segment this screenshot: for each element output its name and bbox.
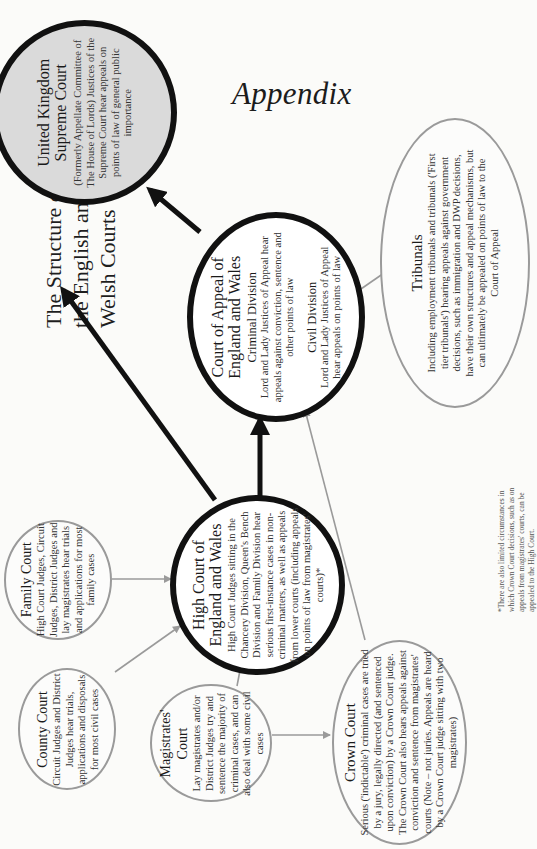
node-court-of-appeal: Court of Appeal of England and Wales Cri… bbox=[187, 212, 365, 422]
arrow-appeal-to-supreme bbox=[150, 190, 200, 232]
magistrates-title-1: Magistrates' bbox=[157, 688, 174, 798]
tribunals-title: Tribunals bbox=[409, 148, 426, 378]
magistrates-title-2: Court bbox=[174, 688, 191, 798]
criminal-division-text: Lord and Lady Justices of Appeal hear ap… bbox=[259, 222, 297, 412]
footnote: *There are also limited circumstances in… bbox=[497, 472, 537, 612]
county-title: County Court bbox=[34, 670, 51, 788]
supreme-text: (Formerly Appellate Committee of The Hou… bbox=[72, 38, 135, 188]
node-family-court: Family Court High Court Judges, Circuit … bbox=[4, 520, 112, 640]
node-crown-court: Crown Court Serious ('indictable') crimi… bbox=[332, 640, 467, 845]
criminal-division-heading: Criminal Division bbox=[245, 222, 259, 412]
arrow-county-to-high bbox=[115, 626, 180, 672]
civil-division-heading: Civil Division bbox=[304, 222, 318, 412]
civil-division-text: Lord and Lady Justices of Appeal hear ap… bbox=[318, 222, 343, 412]
node-high-court: High Court of England and Wales High Cou… bbox=[170, 495, 345, 675]
family-title: Family Court bbox=[18, 522, 35, 638]
magistrates-text: Lay magistrates and/or District Judges t… bbox=[191, 688, 266, 798]
tribunals-text: Including employment tribunals and tribu… bbox=[426, 148, 501, 378]
family-text: High Court Judges, Circuit Judges, Distr… bbox=[35, 522, 98, 638]
high-title-1: High Court of bbox=[190, 504, 207, 666]
appeal-title-1: Court of Appeal of bbox=[209, 222, 226, 412]
high-title-2: England and Wales bbox=[207, 504, 224, 666]
crown-title: Crown Court bbox=[341, 648, 358, 838]
node-supreme-court: United Kingdom Supreme Court (Formerly A… bbox=[0, 20, 177, 205]
node-county-court: County Court Circuit Judges and District… bbox=[18, 668, 116, 790]
node-tribunals: Tribunals Including employment tribunals… bbox=[380, 118, 530, 408]
crown-text: Serious ('indictable') criminal cases ar… bbox=[358, 648, 458, 838]
high-text: High Court Judges sitting in the Chancer… bbox=[226, 504, 326, 666]
supreme-title-2: Supreme Court bbox=[52, 38, 69, 188]
supreme-title-1: United Kingdom bbox=[35, 38, 52, 188]
appeal-title-2: England and Wales bbox=[226, 222, 243, 412]
node-magistrates-court: Magistrates' Court Lay magistrates and/o… bbox=[150, 684, 272, 802]
county-text: Circuit Judges and District Judges hear … bbox=[51, 670, 101, 788]
